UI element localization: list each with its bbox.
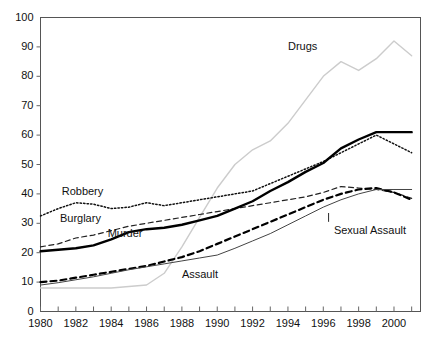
series-line-assault <box>41 189 412 285</box>
y-tick-label: 20 <box>21 247 33 258</box>
chart-figure: 0102030405060708090100 19801982198419861… <box>0 0 433 337</box>
y-tick-label: 30 <box>21 217 33 228</box>
y-tick-label: 10 <box>21 276 33 287</box>
series-label-burglary: Burglary <box>60 213 101 224</box>
y-tick-label: 0 <box>27 306 33 317</box>
series-label-drugs: Drugs <box>288 41 317 52</box>
y-tick-label: 80 <box>21 70 33 81</box>
series-label-assault: Assault <box>182 269 218 280</box>
series-label-robbery: Robbery <box>62 186 104 197</box>
y-tick-label: 50 <box>21 159 33 170</box>
y-tick-label: 100 <box>15 12 33 23</box>
y-tick-label: 90 <box>21 41 33 52</box>
line-chart-plot <box>0 0 433 337</box>
y-tick-label: 40 <box>21 188 33 199</box>
series-line-drugs <box>41 41 412 288</box>
y-tick-label: 70 <box>21 100 33 111</box>
y-tick-label: 60 <box>21 129 33 140</box>
series-label-sexual-assault: Sexual Assault <box>334 225 406 236</box>
series-label-murder: Murder <box>108 228 143 239</box>
x-tick-label: 2000 <box>370 318 418 329</box>
